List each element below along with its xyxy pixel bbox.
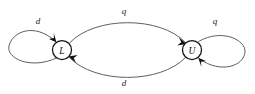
transition-L-to-U-path (70, 23, 186, 43)
state-node-L[interactable]: L (53, 41, 72, 60)
transition-self-U-path (199, 36, 246, 68)
transition-self-U-label: q (213, 16, 218, 26)
transition-self-L: d (9, 16, 57, 63)
state-diagram-canvas: q d d q L U (0, 0, 255, 94)
state-node-L-label: L (58, 46, 64, 56)
transition-self-L-path (9, 31, 57, 63)
transition-self-U: q (198, 16, 245, 67)
state-node-U[interactable]: U (183, 41, 202, 60)
state-diagram: q d d q L U (0, 0, 255, 94)
transition-L-to-U-label: q (122, 6, 127, 16)
transition-U-to-L-path (70, 58, 186, 78)
transition-U-to-L-label: d (122, 78, 127, 88)
state-node-U-label: U (189, 46, 197, 56)
transition-L-to-U: q (70, 6, 187, 46)
transition-self-L-label: d (36, 16, 41, 26)
transition-self-L-arrowhead (49, 33, 57, 42)
transition-U-to-L: d (68, 55, 185, 88)
